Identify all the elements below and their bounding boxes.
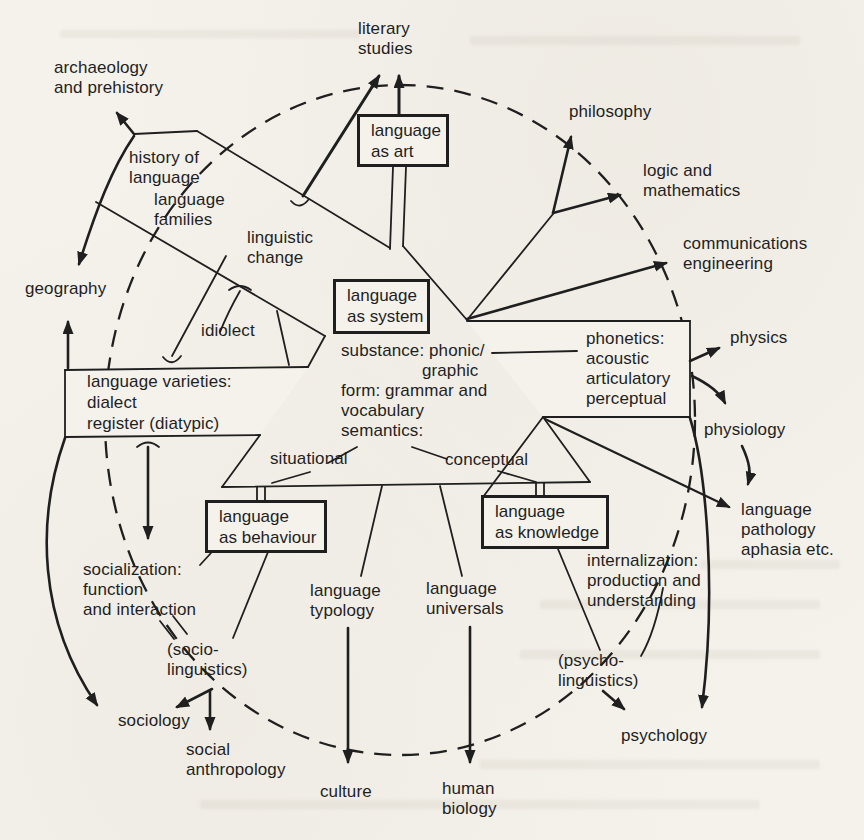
arrow-to-sociology (177, 689, 212, 707)
hop-cup-band (163, 356, 181, 362)
arrow-to-physiology (692, 376, 725, 403)
label-literary-studies: literary studies (358, 19, 413, 59)
cap-idiolect (229, 286, 251, 290)
arrow-to-physics (690, 348, 719, 361)
label-vocabulary: vocabulary (341, 401, 424, 421)
box-language-as-system: language as system (333, 279, 430, 334)
label-linguistic-change: linguistic change (247, 228, 313, 268)
box-language-as-behaviour: language as behaviour (205, 500, 327, 553)
label-form-grammar: form: grammar and (341, 381, 487, 401)
label-socio-linguistics: (socio- linguistics) (167, 640, 248, 680)
label-social-anthropology: social anthropology (186, 740, 286, 780)
label-language-typology: language typology (310, 581, 381, 621)
edge-funnel-bottom (222, 482, 590, 487)
arrow-to-geography-curve (79, 136, 134, 264)
label-culture: culture (320, 782, 372, 802)
label-socialization: socialization: function and interaction (83, 560, 196, 620)
line-behaviour-to-sociolinguistics (233, 552, 268, 638)
fan-semantics-conceptual (412, 447, 447, 459)
label-language-families: language families (154, 190, 225, 230)
label-psychology: psychology (621, 726, 707, 746)
arrow-to-psychology (603, 691, 624, 709)
hop-cup-literary (291, 199, 309, 206)
line-to-universals (440, 486, 462, 576)
label-situational: situational (270, 449, 348, 469)
label-conceptual: conceptual (445, 450, 528, 470)
arrow-to-philosophy (553, 137, 571, 213)
tick-socialization-1 (160, 621, 174, 639)
label-idiolect: idiolect (201, 321, 255, 341)
label-history-of-language: history of language (129, 148, 200, 188)
arrow-to-archaeology (117, 113, 134, 134)
edge-hub-to-vertex (467, 214, 553, 320)
label-physics: physics (730, 328, 787, 348)
edge-idiolect-point (308, 336, 325, 367)
label-archaeology-prehistory: archaeology and prehistory (54, 58, 163, 98)
label-language-pathology: language pathology aphasia etc. (741, 500, 834, 560)
label-substance-phonic: substance: phonic/ (341, 341, 485, 361)
line-to-typology (361, 486, 382, 576)
label-logic-mathematics: logic and mathematics (643, 161, 740, 201)
label-human-biology: human biology (442, 779, 497, 819)
pointer-conceptual (498, 471, 536, 482)
diagram-page: language as art language as system langu… (0, 0, 864, 840)
arrow-to-logic-mathematics (553, 195, 620, 213)
edge-band-to-funnel (222, 435, 260, 487)
label-communications-engineering: communications engineering (683, 234, 807, 274)
label-language-varieties: language varieties: dialect register (di… (87, 371, 232, 434)
label-graphic: graphic (422, 361, 478, 381)
label-internalization: internalization: production and understa… (587, 551, 701, 611)
arrow-physiology-to-pathology (742, 446, 750, 484)
edge-wedge-top-short (134, 131, 197, 134)
arrow-to-communications-engineering (467, 263, 666, 319)
curve-wedge-1 (172, 256, 226, 356)
edge-art-channel-right (403, 167, 406, 246)
label-phonetics: phonetics: acoustic articulatory percept… (586, 329, 670, 409)
edge-art-channel-left (390, 167, 393, 249)
box-language-as-knowledge: language as knowledge (481, 495, 609, 549)
curve-wedge-3 (277, 311, 289, 365)
pointer-situational (272, 472, 310, 483)
label-sociology: sociology (118, 711, 190, 731)
label-psycho-linguistics: (psycho- linguistics) (558, 651, 639, 691)
edge-triangle-right (543, 417, 590, 482)
label-semantics: semantics: (341, 421, 423, 441)
label-language-universals: language universals (426, 579, 504, 619)
box-language-as-art: language as art (357, 114, 449, 167)
label-physiology: physiology (704, 420, 785, 440)
label-geography: geography (25, 279, 106, 299)
line-behaviour-to-socialization (200, 553, 211, 565)
label-philosophy: philosophy (569, 102, 651, 122)
arrow-to-language-pathology (545, 419, 729, 507)
